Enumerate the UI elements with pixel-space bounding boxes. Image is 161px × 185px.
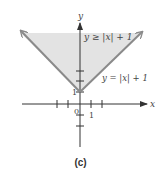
y-axis-label: y — [77, 11, 84, 21]
origin-label: 0 — [74, 107, 79, 116]
x-axis-label: x — [150, 99, 155, 109]
y-tick-label-1: 1 — [72, 88, 77, 97]
figure-caption: (c) — [0, 157, 161, 168]
graph-figure: y x 1 0 1 y ≥ |x| + 1 y = |x| + 1 (c) — [0, 0, 161, 185]
boundary-label: y = |x| + 1 — [101, 73, 148, 84]
region-label: y ≥ |x| + 1 — [83, 32, 132, 43]
x-tick-label-1: 1 — [89, 111, 94, 120]
